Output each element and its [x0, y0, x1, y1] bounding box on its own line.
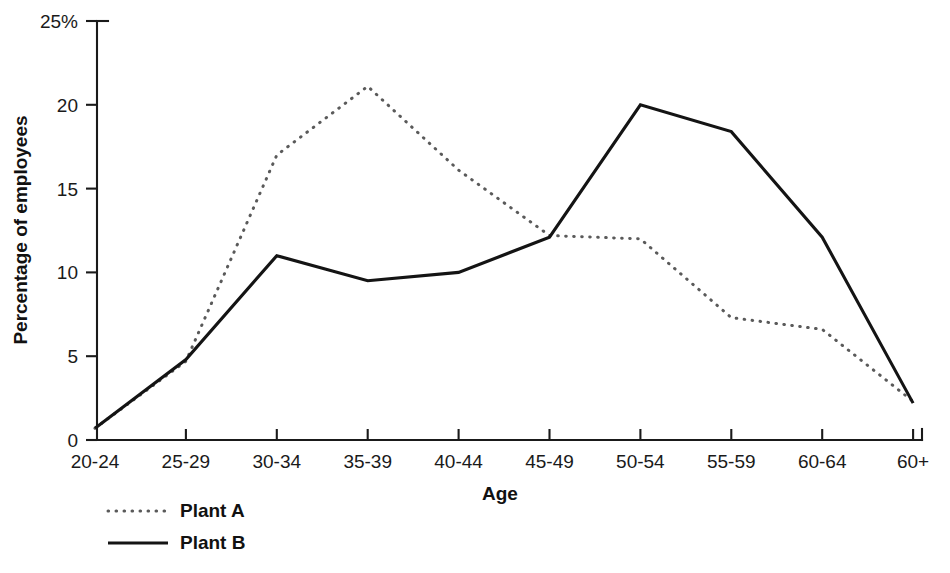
- x-tick-label: 20-24: [71, 451, 120, 472]
- y-tick-label: 5: [67, 346, 78, 367]
- x-tick-label: 35-39: [343, 451, 392, 472]
- y-tick-label: 10: [57, 262, 78, 283]
- x-tick-label: 50-54: [616, 451, 665, 472]
- y-tick-label: 15: [57, 179, 78, 200]
- chart-canvas: 0510152025% 20-2425-2930-3435-3940-4445-…: [0, 0, 950, 573]
- axis-spines: [97, 21, 922, 440]
- series-line-plant-b: [95, 105, 913, 428]
- x-axis-ticks: 20-2425-2930-3435-3940-4445-4950-5455-59…: [71, 429, 930, 472]
- line-chart: 0510152025% 20-2425-2930-3435-3940-4445-…: [0, 0, 950, 573]
- x-tick-label: 30-34: [252, 451, 301, 472]
- y-tick-label: 20: [57, 95, 78, 116]
- legend-label-plant-a: Plant A: [180, 500, 245, 521]
- x-tick-label: 55-59: [707, 451, 756, 472]
- x-tick-label: 40-44: [434, 451, 483, 472]
- chart-legend: Plant APlant B: [108, 500, 245, 553]
- x-axis-title: Age: [482, 483, 518, 504]
- x-tick-label: 25-29: [162, 451, 211, 472]
- series-line-plant-a: [95, 86, 913, 428]
- y-tick-label: 25%: [40, 11, 78, 32]
- x-tick-label: 60-64: [798, 451, 847, 472]
- y-axis-ticks: 0510152025%: [40, 11, 97, 451]
- x-tick-label: 60+: [897, 451, 929, 472]
- axis-frame: [97, 21, 922, 440]
- y-tick-label: 0: [67, 430, 78, 451]
- data-series-group: [95, 86, 913, 428]
- y-axis-title: Percentage of employees: [10, 115, 31, 344]
- legend-label-plant-b: Plant B: [180, 532, 245, 553]
- x-tick-label: 45-49: [525, 451, 574, 472]
